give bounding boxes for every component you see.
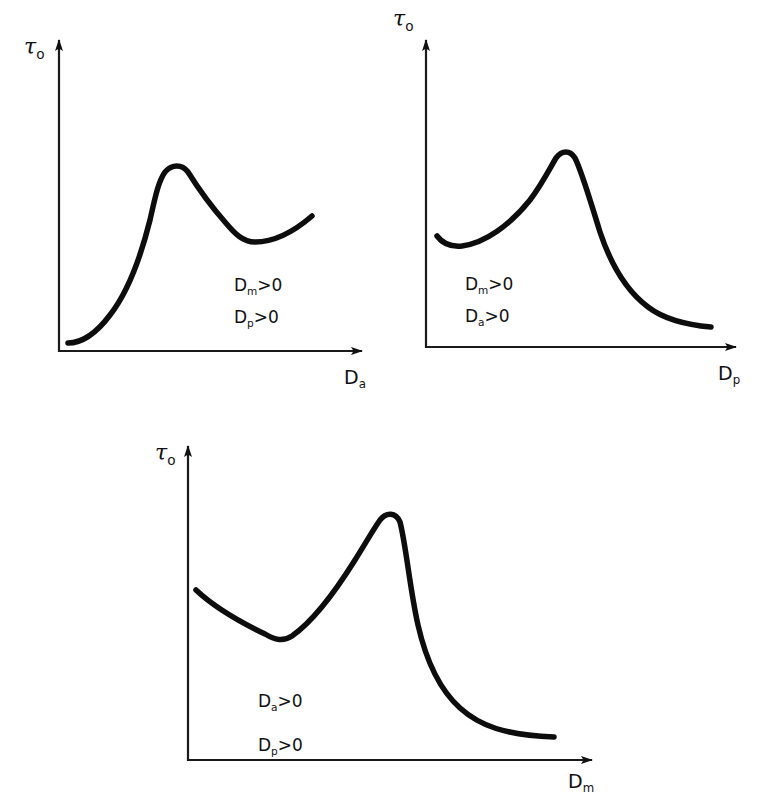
y-axis-label-chart-dm: τo [155, 440, 176, 468]
conditions-chart-da: Dm>0 Dp>0 [234, 272, 282, 335]
condition-line: Dp>0 [234, 304, 282, 336]
x-axis-label-chart-dm: Dm [568, 770, 594, 795]
plots-canvas [0, 0, 769, 806]
condition-line: Dp>0 [258, 726, 303, 770]
x-axis-label-chart-dp: Dp [718, 362, 740, 387]
condition-line: Dm>0 [465, 271, 513, 303]
condition-line: Da>0 [258, 682, 303, 726]
chart-da [58, 40, 362, 352]
condition-line: Da>0 [465, 303, 513, 335]
figure: τo Da Dm>0 Dp>0 τo Dp Dm>0 Da>0 τo Dm Da… [0, 0, 769, 806]
x-axis-label-chart-da: Da [344, 366, 366, 391]
chart-dm [187, 446, 592, 761]
curve-tau-vs-dm [196, 514, 554, 737]
y-axis-label-chart-dp: τo [393, 6, 414, 34]
y-axis-label-chart-da: τo [24, 34, 45, 62]
conditions-chart-dp: Dm>0 Da>0 [465, 271, 513, 334]
conditions-chart-dm: Da>0 Dp>0 [258, 682, 303, 769]
condition-line: Dm>0 [234, 272, 282, 304]
